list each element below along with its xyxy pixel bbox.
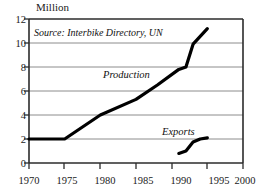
chart-figure: Million 12 10 8 6 4 2 0 1970 1975 1980 1… <box>0 0 266 194</box>
gridlines <box>29 43 243 139</box>
plot-area <box>0 0 266 194</box>
x-axis-ticks <box>29 163 243 169</box>
series-line-exports <box>179 138 208 154</box>
series-line-production <box>29 29 207 139</box>
